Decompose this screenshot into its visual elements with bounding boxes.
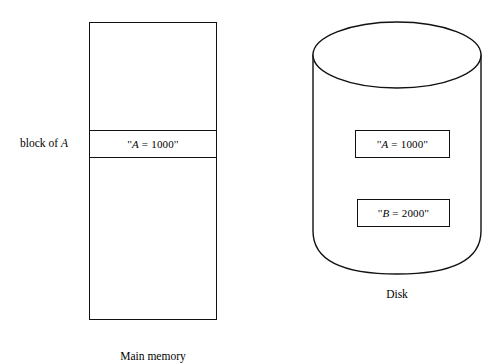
quote-close: '' — [174, 138, 178, 150]
disk-record-box-b: ''B = 2000'' — [357, 199, 450, 227]
main-memory-caption: Main memory — [89, 350, 217, 362]
value: 2000 — [402, 207, 425, 219]
quote-close: '' — [424, 138, 428, 150]
disk-record-box-a: ''A = 1000'' — [355, 130, 450, 158]
main-memory-block-text: ''A = 1000'' — [128, 139, 179, 150]
disk-record-b-text: ''B = 2000'' — [378, 208, 429, 219]
disk-group: ''A = 1000'' ''B = 2000'' Disk — [307, 16, 487, 282]
block-of-a-label: block of A — [20, 137, 68, 149]
operator: = — [391, 138, 397, 150]
variable-name: A — [132, 138, 139, 150]
value: 1000 — [401, 138, 424, 150]
block-of-a-text: block of — [20, 137, 61, 149]
figure-canvas: ''A = 1000'' Main memory block of A ''A … — [0, 0, 504, 364]
disk-caption: Disk — [307, 288, 487, 300]
disk-record-a-text: ''A = 1000'' — [377, 139, 428, 150]
main-memory-rectangle — [89, 22, 217, 320]
block-of-a-variable: A — [61, 137, 68, 149]
main-memory-group: ''A = 1000'' Main memory — [89, 22, 217, 320]
variable-name: A — [381, 138, 388, 150]
value: 1000 — [151, 138, 174, 150]
operator: = — [142, 138, 148, 150]
main-memory-block-row: ''A = 1000'' — [89, 130, 217, 158]
operator: = — [392, 207, 398, 219]
variable-name: B — [382, 207, 389, 219]
quote-close: '' — [425, 207, 429, 219]
